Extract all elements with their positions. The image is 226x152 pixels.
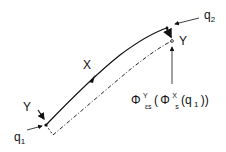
label-y-end: Y (179, 34, 187, 48)
q2-point (166, 27, 169, 30)
q2-pointer-arrow (175, 18, 199, 24)
x-direction-arrow-icon (89, 75, 95, 83)
y-flow-dashdot-curve (53, 41, 172, 135)
y-vector-end (167, 29, 171, 37)
y-vector-start (38, 110, 44, 119)
q1-point (44, 123, 47, 126)
label-x: X (83, 58, 91, 72)
label-q1: q1 (14, 130, 26, 146)
formula-label: Φ Y εs ( Φ X s (q 1 )) (131, 87, 209, 112)
label-y-start: Y (23, 100, 31, 114)
x-flow-curve (46, 28, 167, 125)
start-connector (46, 125, 53, 135)
label-q2: q2 (204, 8, 216, 24)
q1-pointer-arrow (27, 126, 42, 130)
flow-composition-diagram: q2 Y X Y q1 Φ Y εs ( Φ X s (q 1 )) (0, 0, 226, 152)
